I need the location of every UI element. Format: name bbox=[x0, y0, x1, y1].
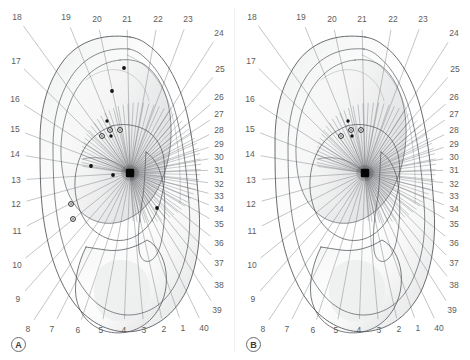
sector-label-22: 22 bbox=[153, 15, 163, 24]
panel-a-letter-badge: A bbox=[11, 337, 26, 352]
sector-label-29: 29 bbox=[214, 140, 224, 149]
sector-label-7: 7 bbox=[50, 325, 55, 334]
sector-label-6: 6 bbox=[76, 326, 81, 335]
panel-b: 1819202122232417251626271528291430313213… bbox=[235, 0, 470, 360]
sector-label-13: 13 bbox=[246, 176, 256, 185]
sector-label-17: 17 bbox=[246, 57, 256, 66]
sector-label-22: 22 bbox=[388, 15, 398, 24]
sector-label-35: 35 bbox=[214, 220, 224, 229]
sector-label-5: 5 bbox=[99, 326, 104, 335]
sector-label-11: 11 bbox=[12, 227, 21, 236]
sector-label-8: 8 bbox=[261, 325, 266, 334]
sector-label-19: 19 bbox=[61, 13, 71, 22]
sector-label-20: 20 bbox=[327, 15, 337, 24]
sector-label-39: 39 bbox=[447, 306, 457, 315]
sector-label-1: 1 bbox=[181, 324, 186, 333]
panel-b-letter-badge: B bbox=[246, 337, 261, 352]
sector-label-16: 16 bbox=[10, 95, 20, 104]
sector-label-34: 34 bbox=[214, 205, 224, 214]
sector-label-27: 27 bbox=[214, 110, 224, 119]
sector-label-26: 26 bbox=[214, 93, 224, 102]
sector-label-28: 28 bbox=[449, 126, 459, 135]
sector-label-34: 34 bbox=[449, 205, 459, 214]
sector-label-9: 9 bbox=[251, 295, 256, 304]
sector-label-26: 26 bbox=[449, 93, 459, 102]
sector-label-2: 2 bbox=[397, 325, 402, 334]
sector-label-10: 10 bbox=[247, 261, 257, 270]
sector-label-4: 4 bbox=[122, 326, 127, 335]
sector-label-1: 1 bbox=[416, 324, 421, 333]
sector-label-2: 2 bbox=[162, 325, 167, 334]
sector-label-25: 25 bbox=[450, 65, 460, 74]
sector-label-38: 38 bbox=[214, 281, 224, 290]
sector-label-38: 38 bbox=[449, 281, 459, 290]
sector-label-39: 39 bbox=[212, 306, 222, 315]
panel-b-drawing bbox=[235, 0, 470, 360]
panel-a: 1819202122232417251626271528291430313213… bbox=[0, 0, 235, 360]
sector-label-21: 21 bbox=[122, 15, 132, 24]
sector-label-37: 37 bbox=[214, 259, 224, 268]
sector-label-32: 32 bbox=[449, 180, 459, 189]
sector-label-21: 21 bbox=[357, 15, 367, 24]
sector-label-30: 30 bbox=[214, 153, 224, 162]
sector-label-14: 14 bbox=[10, 150, 20, 159]
sector-label-4: 4 bbox=[357, 326, 362, 335]
sector-label-36: 36 bbox=[449, 239, 459, 248]
sector-label-15: 15 bbox=[245, 125, 255, 134]
sector-label-16: 16 bbox=[245, 95, 255, 104]
sector-label-3: 3 bbox=[142, 326, 147, 335]
sector-label-11: 11 bbox=[247, 227, 256, 236]
sector-label-29: 29 bbox=[449, 140, 459, 149]
panel-a-drawing bbox=[0, 0, 235, 360]
sector-label-9: 9 bbox=[16, 295, 21, 304]
sector-label-7: 7 bbox=[285, 325, 290, 334]
sector-label-3: 3 bbox=[377, 326, 382, 335]
sector-label-15: 15 bbox=[10, 125, 20, 134]
sector-label-18: 18 bbox=[247, 13, 257, 22]
sector-label-17: 17 bbox=[11, 57, 21, 66]
sector-label-5: 5 bbox=[334, 326, 339, 335]
sector-label-25: 25 bbox=[215, 65, 225, 74]
sector-label-20: 20 bbox=[92, 15, 102, 24]
sector-label-40: 40 bbox=[434, 324, 444, 333]
sector-label-23: 23 bbox=[418, 15, 428, 24]
sector-label-37: 37 bbox=[449, 259, 459, 268]
sector-label-8: 8 bbox=[26, 325, 31, 334]
sector-label-31: 31 bbox=[214, 166, 224, 175]
sector-label-24: 24 bbox=[449, 29, 459, 38]
sector-label-35: 35 bbox=[449, 220, 459, 229]
sector-label-18: 18 bbox=[12, 13, 22, 22]
sector-label-13: 13 bbox=[11, 176, 21, 185]
sector-label-40: 40 bbox=[199, 324, 209, 333]
sector-label-31: 31 bbox=[449, 166, 459, 175]
sector-label-30: 30 bbox=[449, 153, 459, 162]
sector-label-19: 19 bbox=[296, 13, 306, 22]
sector-label-27: 27 bbox=[449, 110, 459, 119]
sector-label-12: 12 bbox=[246, 200, 256, 209]
sector-label-33: 33 bbox=[449, 192, 459, 201]
sector-label-36: 36 bbox=[214, 239, 224, 248]
sector-label-14: 14 bbox=[245, 150, 255, 159]
ear-acupuncture-figure: 1819202122232417251626271528291430313213… bbox=[0, 0, 470, 360]
sector-label-32: 32 bbox=[214, 180, 224, 189]
sector-label-12: 12 bbox=[11, 200, 21, 209]
sector-label-28: 28 bbox=[214, 126, 224, 135]
sector-label-24: 24 bbox=[214, 29, 224, 38]
sector-label-23: 23 bbox=[183, 15, 193, 24]
sector-label-33: 33 bbox=[214, 192, 224, 201]
sector-label-10: 10 bbox=[12, 261, 22, 270]
sector-label-6: 6 bbox=[311, 326, 316, 335]
